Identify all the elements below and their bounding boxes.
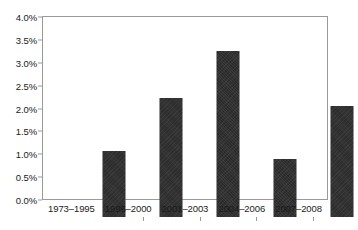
- x-axis-tick-label: 2001–2003: [157, 203, 214, 214]
- y-axis-tick-label: 0.5%: [16, 172, 37, 183]
- bar-slot: [143, 34, 200, 217]
- y-axis-tick-label: 4.0%: [16, 12, 37, 23]
- x-axis: 1973–19951996–20002001–20032004–20062007…: [43, 203, 327, 219]
- y-axis-tick-label: 3.0%: [16, 57, 37, 68]
- y-axis-tick-label: 0.0%: [16, 195, 37, 206]
- plot-area: [42, 16, 328, 200]
- bar-slot: [86, 34, 143, 217]
- bar-slot: [200, 34, 257, 217]
- y-axis-tick-label: 2.5%: [16, 80, 37, 91]
- x-axis-tick-label: 1996–2000: [100, 203, 157, 214]
- y-axis-tick-label: 1.0%: [16, 149, 37, 160]
- bar[interactable]: [216, 51, 239, 217]
- bars-layer: [86, 34, 358, 217]
- x-axis-tick-label: 1973–1995: [43, 203, 100, 214]
- bar-slot: [313, 34, 358, 217]
- bar[interactable]: [160, 98, 183, 217]
- y-axis-tick-label: 3.5%: [16, 34, 37, 45]
- x-axis-tick-label: 2004–2006: [213, 203, 270, 214]
- bar-slot: [256, 34, 313, 217]
- bar[interactable]: [330, 106, 353, 217]
- y-axis-tick-label: 1.5%: [16, 126, 37, 137]
- x-axis-tick-label: 2007–2008: [270, 203, 327, 214]
- y-axis: 0.0%0.5%1.0%1.5%2.0%2.5%3.0%3.5%4.0%: [0, 16, 42, 200]
- y-axis-tick-label: 2.0%: [16, 103, 37, 114]
